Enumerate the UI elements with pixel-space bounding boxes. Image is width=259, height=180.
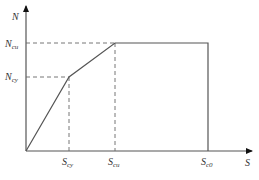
load-curve (26, 43, 208, 151)
load-displacement-diagram: N S Ncu Ncy Scy Scu Sc0 (0, 0, 259, 180)
y-tick-ncy: Ncy (4, 71, 19, 84)
x-tick-sc0: Sc0 (201, 156, 213, 169)
y-axis-label: N (11, 11, 20, 22)
y-tick-ncu: Ncu (4, 38, 19, 51)
x-tick-scy: Scy (62, 156, 74, 169)
x-tick-scu: Scu (108, 156, 120, 169)
x-axis-label: S (245, 157, 250, 168)
